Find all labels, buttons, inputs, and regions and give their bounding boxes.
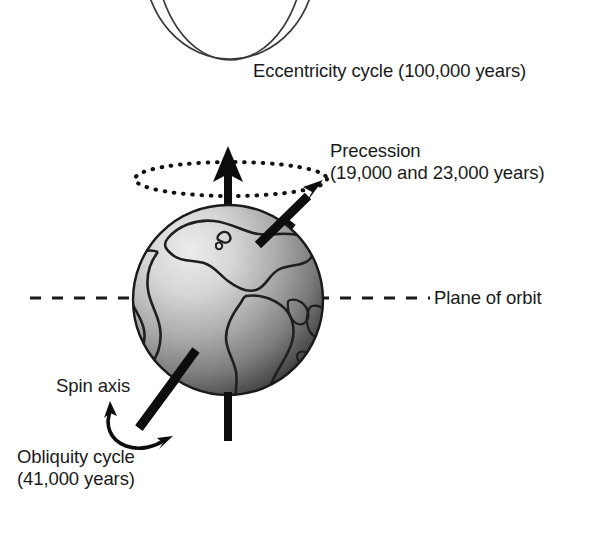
obliquity-label-line2: (41,000 years) [17, 468, 135, 490]
eccentricity-cycle-label: Eccentricity cycle (100,000 years) [253, 60, 526, 82]
island-australia [292, 376, 310, 397]
spin-axis-label: Spin axis [56, 375, 130, 397]
obliquity-cycle-label: Obliquity cycle (41,000 years) [17, 446, 135, 490]
obliquity-label-line1: Obliquity cycle [17, 446, 135, 468]
orbit-curve-circular [144, 0, 316, 59]
diagram-canvas: Eccentricity cycle (100,000 years) Prece… [0, 0, 605, 538]
earth-globe [126, 205, 330, 417]
island-se-asia [316, 347, 330, 362]
plane-of-orbit-label: Plane of orbit [434, 287, 542, 309]
precession-label: Precession (19,000 and 23,000 years) [330, 140, 545, 184]
eccentricity-orbit-curves [144, 0, 316, 60]
precession-label-line2: (19,000 and 23,000 years) [330, 162, 545, 184]
precession-label-line1: Precession [330, 140, 545, 162]
orbit-curve-elliptical [155, 0, 305, 60]
obliquity-arc [108, 409, 166, 448]
